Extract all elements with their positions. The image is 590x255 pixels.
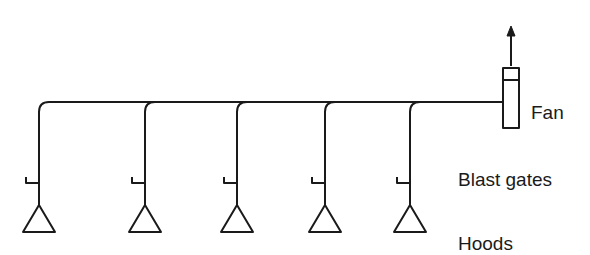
branch-1 [23, 102, 55, 232]
hood-icon [129, 205, 161, 232]
blast-gate-icon [397, 177, 410, 183]
hood-icon [23, 205, 55, 232]
branch-5 [394, 102, 426, 232]
blast-gate-icon [132, 177, 145, 183]
blast-gate-icon [26, 177, 39, 183]
blast-gate-icon [224, 177, 237, 183]
branches [23, 102, 426, 232]
branch-duct [145, 102, 155, 205]
branch-2 [129, 102, 161, 232]
hoods-label: Hoods [458, 234, 513, 253]
branch-3 [221, 102, 253, 232]
hood-icon [394, 205, 426, 232]
branch-duct [39, 102, 49, 205]
fan-label: Fan [531, 103, 564, 122]
blast-gate-icon [312, 177, 325, 183]
branch-duct [237, 102, 247, 205]
ventilation-diagram [0, 0, 590, 255]
branch-duct [410, 102, 420, 205]
blast-gates-label: Blast gates [458, 170, 552, 189]
exhaust-arrow-icon [507, 26, 515, 36]
hood-icon [309, 205, 341, 232]
branch-4 [309, 102, 341, 232]
branch-duct [325, 102, 335, 205]
fan-icon [503, 68, 519, 128]
hood-icon [221, 205, 253, 232]
